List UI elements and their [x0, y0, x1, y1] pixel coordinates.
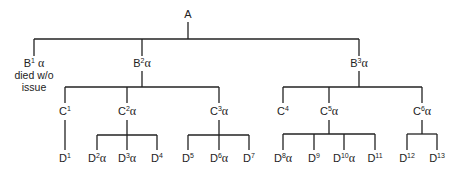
node-d10: D10α — [333, 151, 356, 165]
node-b1-note-line1: died w/o — [14, 69, 53, 81]
node-d3: D3α — [118, 151, 137, 165]
family-tree-diagram: A B1 α died w/o issue B2α B3α C1 C2α C3α… — [0, 0, 457, 177]
node-d9: D9 — [308, 152, 320, 164]
node-a: A — [184, 8, 192, 20]
node-c3: C3α — [210, 104, 229, 118]
node-c2: C2α — [118, 104, 137, 118]
node-b1-note-line2: issue — [22, 81, 47, 93]
node-c1: C1 — [59, 105, 71, 117]
node-c5: C5α — [320, 104, 339, 118]
node-b2: B2α — [133, 56, 151, 70]
node-d6: D6α — [210, 151, 229, 165]
node-b3: B3α — [350, 56, 368, 70]
node-c6: C6α — [413, 104, 432, 118]
node-d7: D7 — [243, 152, 255, 164]
node-d5: D5 — [182, 152, 194, 164]
node-d1: D1 — [59, 152, 71, 164]
node-d13: D13 — [429, 152, 445, 164]
tree-edges — [34, 22, 437, 150]
node-d12: D12 — [399, 152, 415, 164]
node-c4: C4 — [277, 105, 289, 117]
node-d8: D8α — [274, 151, 293, 165]
node-b1: B1 α — [24, 56, 45, 70]
node-d2: D2α — [88, 151, 107, 165]
node-d11: D11 — [367, 152, 382, 164]
node-d4: D4 — [151, 152, 163, 164]
